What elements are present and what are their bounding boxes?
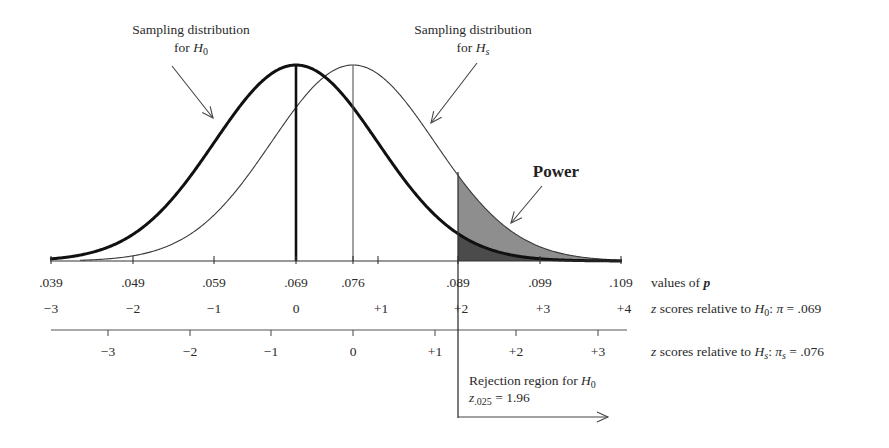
z0-axis-tick-labels: −3−2−10+1+2+3+4 [44,301,632,316]
p-tick-label: .099 [528,275,552,290]
p-axis-title: values of p [651,275,710,290]
zs-tick-label: −2 [183,344,197,359]
z0-axis-title: z scores relative to H0: π = .069 [650,301,821,318]
p-tick-label: .069 [284,275,308,290]
power-label: Power [533,162,580,181]
p-tick-label: .109 [609,275,633,290]
power-pointer-arrow [511,186,542,223]
hs-label-line1: Sampling distribution [414,22,532,37]
zs-tick-label: −3 [101,344,116,359]
zs-tick-label: −1 [264,344,278,359]
zs-tick-label: +3 [591,344,606,359]
rejection-region-label: Rejection region for H0 [469,373,596,390]
p-tick-label: .049 [121,275,145,290]
power-diagram: Sampling distribution for H0 Sampling di… [0,0,889,448]
zs-tick-label: +2 [509,344,523,359]
zs-tick-label: 0 [350,344,357,359]
z0-tick-label: 0 [293,301,300,316]
p-tick-label: .059 [202,275,226,290]
zs-axis-title: z scores relative to Hs: πs = .076 [650,344,824,361]
h0-label-line1: Sampling distribution [132,22,250,37]
p-axis-tick-labels: .039.049.059.069.076.089.099.109 [39,275,633,290]
zs-axis-ticks [108,330,598,336]
zs-tick-label: +1 [428,344,442,359]
z0-tick-label: +3 [536,301,551,316]
h0-pointer-arrow [172,66,213,118]
z0-tick-label: +4 [617,301,632,316]
p-tick-label: .076 [341,275,365,290]
z0-tick-label: −2 [126,301,140,316]
critical-z-label: z.025 = 1.96 [468,390,530,407]
hs-label-line2: for Hs [457,40,490,57]
zs-axis-tick-labels: −3−2−10+1+2+3 [101,344,606,359]
p-tick-label: .089 [446,275,470,290]
hs-pointer-arrow [431,63,477,123]
h0-label-line2: for H0 [174,40,208,57]
z0-tick-label: −1 [207,301,221,316]
p-tick-label: .039 [39,275,63,290]
z0-tick-label: −3 [44,301,59,316]
z0-tick-label: +1 [374,301,388,316]
z0-tick-label: +2 [454,301,468,316]
